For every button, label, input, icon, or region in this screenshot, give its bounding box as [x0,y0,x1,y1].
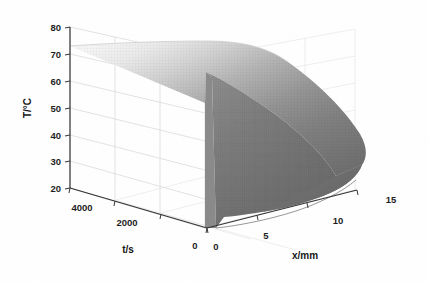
y-tick-label-2000: 2000 [116,217,137,228]
x-tick-label-15: 15 [386,194,397,205]
x-tick-label-0: 0 [213,241,218,252]
z-tick-label-70: 70 [50,49,61,60]
z-tick-label-50: 50 [50,103,61,114]
plot-canvas: 80 70 60 50 40 30 20 T/°C 4000 2000 0 t/… [0,0,428,282]
y-tick-label-4000: 4000 [71,202,92,213]
figure-3d-surface-plot: 80 70 60 50 40 30 20 T/°C 4000 2000 0 t/… [0,0,428,282]
y-axis-title: t/s [122,244,134,255]
z-axis: 80 70 60 50 40 30 20 T/°C [22,22,70,194]
x-tick-label-10: 10 [333,215,344,226]
z-tick-label-80: 80 [50,22,61,33]
z-tick-label-20: 20 [50,183,61,194]
z-tick-label-30: 30 [50,156,61,167]
z-tick-label-60: 60 [50,76,61,87]
x-axis-title: x/mm [292,250,318,261]
y-axis: 4000 2000 0 t/s [69,188,207,255]
z-axis-title: T/°C [22,98,33,118]
y-tick-label-0: 0 [192,240,197,251]
x-tick-label-5: 5 [263,230,269,241]
z-tick-label-40: 40 [50,130,61,141]
surface-mesh [70,41,366,228]
